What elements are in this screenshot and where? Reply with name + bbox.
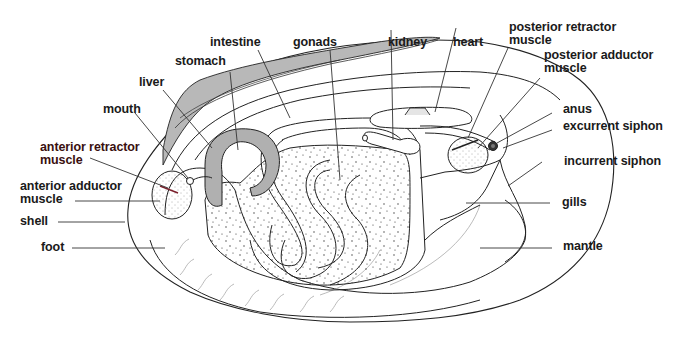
label-foot: foot — [41, 241, 64, 254]
label-posterior-adductor-muscle: posterior adductor muscle — [544, 49, 653, 75]
label-heart: heart — [453, 36, 483, 49]
label-anterior-adductor-muscle: anterior adductor muscle — [20, 180, 122, 206]
label-anus: anus — [563, 103, 592, 116]
label-excurrent-siphon: excurrent siphon — [563, 120, 663, 133]
label-anterior-retractor-muscle: anterior retractor muscle — [40, 141, 140, 167]
label-mouth: mouth — [103, 103, 141, 116]
gonads-region — [205, 145, 410, 285]
mouth — [187, 178, 194, 185]
label-gills: gills — [562, 196, 587, 209]
label-gonads: gonads — [293, 36, 337, 49]
label-kidney: kidney — [388, 36, 427, 49]
label-intestine: intestine — [210, 36, 261, 49]
label-incurrent-siphon: incurrent siphon — [564, 155, 661, 168]
label-posterior-retractor-muscle: posterior retractor muscle — [509, 21, 616, 47]
label-stomach: stomach — [175, 55, 226, 68]
label-shell: shell — [20, 215, 48, 228]
label-mantle: mantle — [563, 240, 603, 253]
posterior-adductor-muscle — [448, 137, 488, 173]
anterior-adductor-muscle — [152, 171, 192, 219]
label-liver: liver — [139, 76, 164, 89]
